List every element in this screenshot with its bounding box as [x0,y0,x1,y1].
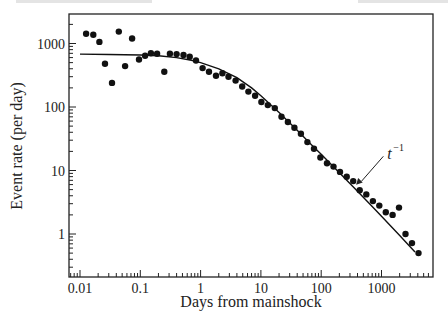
data-point [311,146,317,152]
data-point [122,63,128,69]
plot-border [69,14,433,277]
data-point [142,53,148,59]
data-point [370,198,376,204]
data-point [291,125,297,131]
data-point [129,35,135,41]
x-tick-label: 0.01 [68,281,93,296]
data-point [232,77,238,83]
y-axis-ticks: 1101001000 [37,24,76,267]
x-axis-title: Days from mainshock [180,293,321,311]
data-point [298,131,304,137]
annotation-label: t [387,145,392,162]
data-point [415,250,421,256]
data-point [193,57,199,63]
data-point [272,105,278,111]
data-point [199,65,205,71]
data-point [357,187,363,193]
data-point [219,70,225,76]
data-point [278,114,284,120]
y-tick-label: 1 [58,227,65,242]
annotation-superscript: −1 [393,142,404,153]
data-point [258,99,264,105]
data-point [252,93,258,99]
data-point [148,50,154,56]
data-point [285,119,291,125]
data-point [409,240,415,246]
data-point [376,202,382,208]
data-point [396,204,402,210]
data-point [389,212,395,218]
data-point [350,178,356,184]
data-point [344,174,350,180]
data-point [245,88,251,94]
data-points [83,28,422,256]
data-point [161,69,167,75]
plot-frame [69,14,433,277]
data-point [383,209,389,215]
data-point [180,52,186,58]
annotation-t-minus-1: t−1 [356,142,404,184]
y-tick-label: 100 [44,100,65,115]
annotation-arrow-shaft [362,156,384,181]
data-point [109,80,115,86]
y-tick-label: 10 [51,164,65,179]
data-point [83,31,89,37]
data-point [136,56,142,62]
chart: 0.010.11101001000 1101001000 t−1 Days fr… [0,0,448,327]
x-tick-label: 0.1 [132,281,150,296]
data-point [330,163,336,169]
data-point [225,74,231,80]
data-point [173,51,179,57]
data-point [96,39,102,45]
data-point [213,73,219,79]
data-point [206,69,212,75]
data-point [167,51,173,57]
y-axis-title: Event rate (per day) [8,82,26,209]
x-tick-label: 1000 [368,281,396,296]
data-point [304,139,310,145]
data-point [337,169,343,175]
data-point [116,28,122,34]
data-point [324,160,330,166]
y-tick-label: 1000 [37,37,65,52]
data-point [239,83,245,89]
data-point [265,102,271,108]
fit-curve [80,54,415,252]
data-point [402,231,408,237]
data-point [90,32,96,38]
data-point [154,51,160,57]
data-point [363,191,369,197]
fit-line [80,54,415,252]
data-point [102,61,108,67]
data-point [317,154,323,160]
data-point [187,54,193,60]
